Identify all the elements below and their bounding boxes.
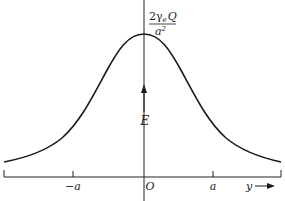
diagram-canvas: E 2γeQ a2 −a O a y [0, 0, 285, 201]
tick-label-origin: O [145, 180, 154, 193]
peak-label-denominator: a2 [155, 25, 167, 38]
peak-label-numerator: 2γeQ [149, 10, 177, 24]
e-arrow-head-icon [141, 84, 147, 93]
field-curve [4, 34, 281, 162]
x-axis-label: y [245, 180, 253, 193]
tick-label-neg-a: −a [65, 180, 81, 193]
x-arrow-head-icon [267, 183, 275, 189]
y-axis-label: E [140, 114, 150, 128]
tick-label-pos-a: a [210, 180, 217, 193]
